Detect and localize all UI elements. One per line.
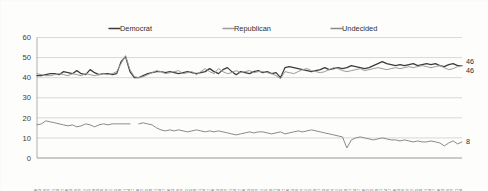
- x-tick-label: 4/2: [140, 189, 144, 191]
- x-tick-label: 1/26: [43, 189, 47, 191]
- x-tick-label: 4/20: [167, 189, 171, 191]
- x-tick-label: 3/12: [109, 189, 113, 191]
- x-tick-label: 7/10: [286, 189, 290, 191]
- x-tick-label: 9/23: [397, 189, 401, 191]
- x-tick-label: 4/23: [171, 189, 175, 191]
- x-tick-label: 9/20: [393, 189, 397, 191]
- x-tick-label: 9/2: [366, 189, 370, 191]
- x-tick-label: 9/8: [375, 189, 379, 191]
- x-tick-label: 9/5: [370, 189, 374, 191]
- x-tick-label: 10/11: [424, 189, 428, 191]
- x-tick-label: 10/29: [450, 189, 454, 191]
- legend-label-republican: Republican: [234, 24, 271, 33]
- x-tick-label: 1/20: [34, 189, 38, 191]
- x-tick-label: 2/16: [74, 189, 78, 191]
- series-line-republican: [37, 56, 462, 79]
- y-tick-label-20: 20: [23, 114, 31, 123]
- x-tick-label: 6/1: [229, 189, 233, 191]
- x-tick-label: 10/23: [441, 189, 445, 191]
- x-tick-label: 2/13: [69, 189, 73, 191]
- x-tick-label: 9/17: [388, 189, 392, 191]
- chart-series: [37, 56, 462, 148]
- x-tick-label: 7/31: [317, 189, 321, 191]
- x-tick-label: 5/14: [202, 189, 206, 191]
- x-tick-label: 4/8: [149, 189, 153, 191]
- x-tick-label: 5/23: [216, 189, 220, 191]
- x-tick-label: 5/20: [211, 189, 215, 191]
- x-tick-label: 3/3: [96, 189, 100, 191]
- x-tick-label: 6/10: [242, 189, 246, 191]
- x-tick-label: 4/11: [154, 189, 158, 191]
- x-tick-label: 4/5: [145, 189, 149, 191]
- x-tick-label: 3/15: [114, 189, 118, 191]
- legend-item-democrat: Democrat: [109, 24, 152, 33]
- y-tick-label-50: 50: [23, 53, 31, 62]
- end-label-undecided: 8: [466, 137, 470, 146]
- legend-item-republican: Republican: [223, 24, 271, 33]
- x-tick-label: 2/10: [65, 189, 69, 191]
- x-tick-label: 5/5: [189, 189, 193, 191]
- x-tick-label: 8/6: [326, 189, 330, 191]
- x-tick-label: 3/6: [100, 189, 104, 191]
- poll-tracker-line-chart: Democrat Republican Undecided 0102030405…: [0, 0, 488, 191]
- x-tick-label: 8/12: [335, 189, 339, 191]
- x-tick-label: 9/11: [379, 189, 383, 191]
- x-tick-label: 7/28: [313, 189, 317, 191]
- x-tick-label: 6/25: [264, 189, 268, 191]
- x-tick-label: 7/25: [308, 189, 312, 191]
- x-tick-label: 9/14: [384, 189, 388, 191]
- end-label-democrat: 46: [466, 57, 474, 66]
- y-tick-label-10: 10: [23, 134, 31, 143]
- x-tick-label: 9/26: [401, 189, 405, 191]
- x-tick-label: 4/17: [162, 189, 166, 191]
- x-tick-label: 4/29: [180, 189, 184, 191]
- x-tick-label: 6/28: [269, 189, 273, 191]
- x-tick-label: 6/7: [238, 189, 242, 191]
- legend-item-undecided: Undecided: [331, 24, 377, 33]
- chart-legend: Democrat Republican Undecided: [109, 24, 377, 33]
- x-tick-label: 3/27: [131, 189, 135, 191]
- x-axis-ticks: 1/201/231/261/292/12/42/72/102/132/162/1…: [34, 189, 463, 191]
- y-tick-label-0: 0: [27, 154, 31, 163]
- x-tick-label: 7/16: [295, 189, 299, 191]
- x-tick-label: 10/8: [419, 189, 423, 191]
- x-tick-label: 10/2: [410, 189, 414, 191]
- x-tick-label: 6/13: [247, 189, 251, 191]
- x-tick-label: 2/4: [56, 189, 60, 191]
- x-tick-label: 10/26: [446, 189, 450, 191]
- x-tick-label: 11/4: [459, 189, 463, 191]
- x-tick-label: 2/1: [52, 189, 56, 191]
- y-tick-label-60: 60: [23, 33, 31, 42]
- x-tick-label: 5/29: [224, 189, 228, 191]
- x-tick-label: 2/25: [87, 189, 91, 191]
- series-end-labels: 46468: [466, 57, 474, 147]
- x-tick-label: 8/24: [353, 189, 357, 191]
- x-tick-label: 6/22: [260, 189, 264, 191]
- x-tick-label: 7/13: [291, 189, 295, 191]
- x-tick-label: 8/27: [357, 189, 361, 191]
- x-tick-label: 7/4: [277, 189, 281, 191]
- x-tick-label: 3/21: [123, 189, 127, 191]
- x-tick-label: 5/26: [220, 189, 224, 191]
- legend-label-democrat: Democrat: [120, 24, 152, 33]
- x-tick-label: 2/19: [78, 189, 82, 191]
- series-line-undecided: [37, 121, 462, 148]
- x-tick-label: 1/23: [38, 189, 42, 191]
- x-tick-label: 5/2: [185, 189, 189, 191]
- x-tick-label: 10/20: [437, 189, 441, 191]
- x-tick-label: 3/24: [127, 189, 131, 191]
- y-tick-label-30: 30: [23, 93, 31, 102]
- x-tick-label: 8/3: [322, 189, 326, 191]
- x-tick-label: 1/29: [47, 189, 51, 191]
- x-tick-label: 5/17: [207, 189, 211, 191]
- y-tick-label-40: 40: [23, 73, 31, 82]
- x-tick-label: 7/7: [282, 189, 286, 191]
- x-tick-label: 3/18: [118, 189, 122, 191]
- x-tick-label: 6/16: [251, 189, 255, 191]
- x-tick-label: 2/7: [61, 189, 65, 191]
- x-tick-label: 11/1: [455, 189, 459, 191]
- x-tick-label: 5/11: [198, 189, 202, 191]
- x-tick-label: 7/1: [273, 189, 277, 191]
- x-tick-label: 9/29: [406, 189, 410, 191]
- x-tick-label: 10/14: [428, 189, 432, 191]
